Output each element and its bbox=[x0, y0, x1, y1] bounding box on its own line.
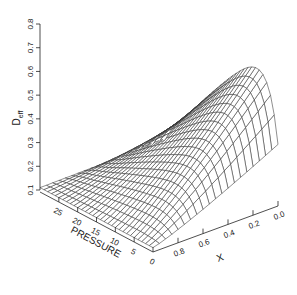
z-tick-label: 0.3 bbox=[26, 136, 35, 148]
x-tick-label: 0.6 bbox=[197, 237, 211, 249]
pressure-tick-label: 5 bbox=[129, 247, 138, 257]
z-tick-label: 0.8 bbox=[26, 18, 35, 30]
z-tick-label: 0.4 bbox=[26, 113, 35, 125]
x-tick-label: 0.8 bbox=[172, 246, 186, 258]
pressure-tick-label: 25 bbox=[52, 206, 65, 218]
svg-text:Deff: Deff bbox=[11, 110, 24, 125]
z-tick-label: 0.5 bbox=[26, 89, 35, 101]
x-tick-label: 0.4 bbox=[222, 228, 236, 240]
z-tick-label: 0.6 bbox=[26, 65, 35, 77]
z-tick-label: 0.7 bbox=[26, 42, 35, 54]
surface-plot: 0.10.20.30.40.50.60.70.8 Deff 2520151050… bbox=[0, 0, 297, 295]
x-tick-label: 0.0 bbox=[272, 209, 286, 221]
x-axis-label: X bbox=[215, 251, 225, 264]
z-tick-label: 0.2 bbox=[26, 160, 35, 172]
x-tick-label: 0.2 bbox=[247, 219, 261, 231]
z-axis-label: Deff bbox=[11, 110, 24, 125]
z-tick-label: 0.1 bbox=[26, 184, 35, 196]
pressure-tick-label: 0 bbox=[148, 257, 157, 267]
z-label-main: D bbox=[11, 118, 22, 125]
z-axis-ticks: 0.10.20.30.40.50.60.70.8 bbox=[26, 18, 40, 196]
z-label-sub: eff bbox=[17, 110, 24, 118]
